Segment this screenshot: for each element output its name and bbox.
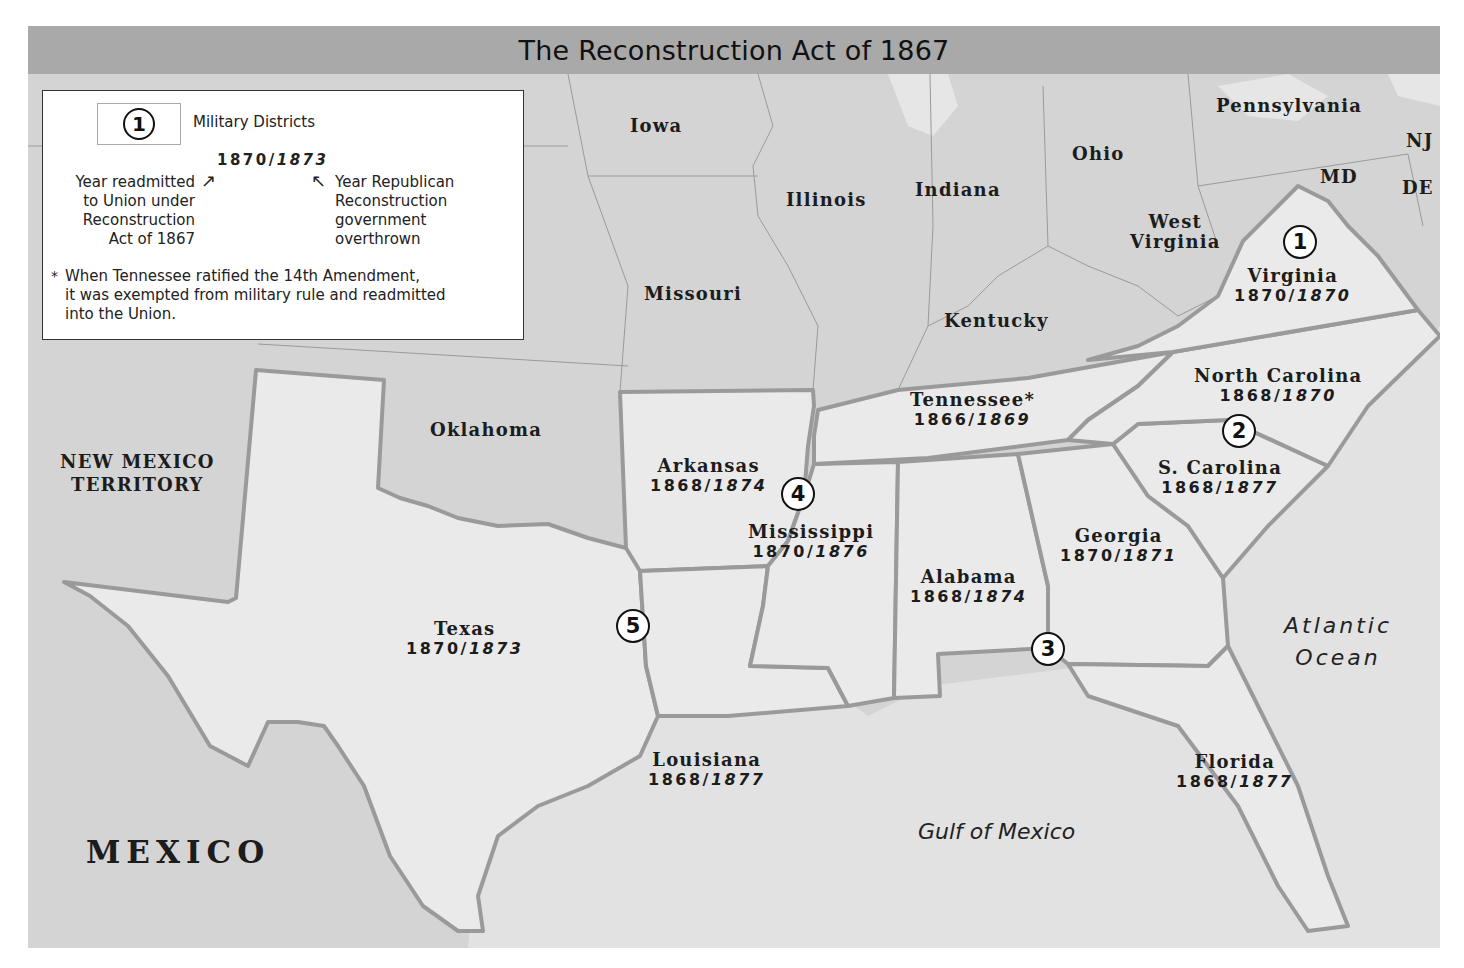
label-north-carolina: North Carolina1868/1870 (1194, 366, 1362, 406)
title-bar: The Reconstruction Act of 1867 (28, 26, 1440, 74)
label-georgia: Georgia1870/1871 (1060, 526, 1177, 566)
footnote-asterisk: * (51, 267, 58, 286)
label-missouri: Missouri (644, 284, 742, 304)
label-illinois: Illinois (786, 190, 867, 210)
district-4-marker: 4 (781, 477, 815, 511)
label-pennsylvania: Pennsylvania (1216, 96, 1362, 116)
map-title: The Reconstruction Act of 1867 (519, 35, 950, 66)
label-atlantic-ocean: AtlanticOcean (1284, 610, 1392, 674)
border-mississippi-river (753, 74, 818, 390)
lake-ontario (1388, 74, 1440, 106)
district-3-marker: 3 (1031, 632, 1065, 666)
label-mississippi: Mississippi1870/1876 (748, 522, 874, 562)
label-iowa: Iowa (630, 116, 682, 136)
border-indiana-ohio (928, 86, 1048, 326)
legend-readmitted-note: Year readmitted to Union under Reconstru… (53, 173, 195, 249)
district-5-marker: 5 (616, 609, 650, 643)
label-tennessee: Tennessee*1866/1869 (910, 390, 1035, 430)
legend-overthrown-note: Year Republican Reconstruction governmen… (335, 173, 454, 249)
label-ohio: Ohio (1072, 144, 1124, 164)
arrow-up-right-icon: ↗ (201, 171, 216, 190)
district-1-marker: 1 (1283, 225, 1317, 259)
label-louisiana: Louisiana1868/1877 (648, 750, 765, 790)
legend-footnote: When Tennessee ratified the 14th Amendme… (65, 267, 446, 324)
legend-example-years: 1870/1873 (217, 151, 328, 170)
border-missouri-west (568, 74, 628, 392)
map-frame: The Reconstruction Act of 1867 1 Militar… (28, 26, 1440, 948)
legend-symbol-label: Military Districts (193, 113, 315, 132)
label-gulf-of-mexico: Gulf of Mexico (918, 816, 1075, 848)
arrow-up-left-icon: ↖ (311, 171, 326, 190)
label-texas: Texas1870/1873 (406, 619, 523, 659)
label-oklahoma: Oklahoma (430, 420, 542, 440)
lake-michigan (888, 74, 958, 136)
district-2-marker: 2 (1222, 414, 1256, 448)
legend: 1 Military Districts 1870/1873 Year read… (42, 90, 524, 340)
label-kentucky: Kentucky (944, 311, 1049, 331)
label-south-carolina: S. Carolina1868/1877 (1158, 458, 1282, 498)
label-new-mexico-territory: NEW MEXICOTERRITORY (60, 450, 215, 496)
label-west-virginia: WestVirginia (1130, 212, 1221, 252)
label-md: MD (1320, 167, 1358, 187)
label-nj: NJ (1406, 131, 1433, 151)
border-kentucky (1048, 246, 1218, 316)
legend-symbol-box: 1 (97, 103, 181, 145)
district-circle-icon: 1 (123, 108, 155, 140)
label-florida: Florida1868/1877 (1176, 752, 1293, 792)
label-de: DE (1402, 178, 1434, 198)
label-mexico: MEXICO (86, 834, 270, 870)
label-alabama: Alabama1868/1874 (910, 567, 1027, 607)
label-arkansas: Arkansas1868/1874 (650, 456, 767, 496)
label-virginia: Virginia1870/1870 (1234, 266, 1351, 306)
border-okla-north (258, 344, 628, 366)
label-indiana: Indiana (915, 180, 1001, 200)
border-pa-south (1198, 154, 1408, 186)
